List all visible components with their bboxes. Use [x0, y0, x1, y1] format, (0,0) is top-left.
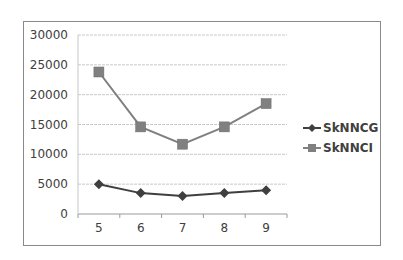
x-axis: 56789 — [78, 214, 287, 235]
x-tick-label: 5 — [95, 221, 103, 235]
y-tick-label: 20000 — [30, 88, 68, 102]
square-marker-icon — [308, 144, 316, 152]
square-marker-icon — [94, 67, 104, 77]
y-axis: 050001000015000200002500030000 — [30, 28, 78, 221]
y-tick-label: 30000 — [30, 28, 68, 42]
square-marker-icon — [219, 122, 229, 132]
line-chart: 050001000015000200002500030000 56789 SkN… — [0, 0, 403, 260]
legend: SkNNCG SkNNCI — [303, 121, 378, 155]
square-marker-icon — [261, 99, 271, 109]
series-SkNNCG — [94, 179, 271, 201]
y-tick-label: 25000 — [30, 58, 68, 72]
y-tick-label: 15000 — [30, 118, 68, 132]
series-line — [99, 72, 266, 144]
diamond-marker-icon — [219, 188, 229, 198]
x-tick-label: 6 — [137, 221, 145, 235]
x-tick-label: 7 — [179, 221, 187, 235]
legend-item-skNNCI: SkNNCI — [303, 141, 373, 155]
x-tick-label: 8 — [220, 221, 228, 235]
diamond-marker-icon — [308, 124, 316, 132]
diamond-marker-icon — [136, 188, 146, 198]
legend-item-skNNCG: SkNNCG — [303, 121, 378, 135]
y-tick-label: 10000 — [30, 147, 68, 161]
diamond-marker-icon — [261, 185, 271, 195]
y-tick-label: 0 — [60, 207, 68, 221]
data-series — [94, 67, 271, 201]
x-tick-label: 9 — [262, 221, 270, 235]
legend-label: SkNNCG — [323, 121, 378, 135]
square-marker-icon — [136, 122, 146, 132]
diamond-marker-icon — [178, 191, 188, 201]
square-marker-icon — [178, 139, 188, 149]
diamond-marker-icon — [94, 179, 104, 189]
legend-label: SkNNCI — [323, 141, 373, 155]
y-tick-label: 5000 — [37, 177, 68, 191]
series-SkNNCI — [94, 67, 271, 149]
